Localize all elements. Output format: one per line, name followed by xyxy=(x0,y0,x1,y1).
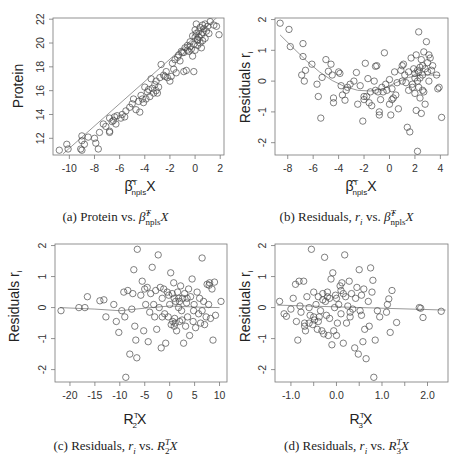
data-points xyxy=(58,246,224,380)
data-point xyxy=(309,61,315,67)
data-point xyxy=(192,325,198,331)
data-point xyxy=(329,72,335,78)
data-point xyxy=(154,326,160,332)
data-point xyxy=(180,340,186,346)
data-point xyxy=(333,332,339,338)
data-point xyxy=(302,328,308,334)
y-tick-label: 1 xyxy=(36,273,48,279)
data-point xyxy=(201,321,207,327)
data-point xyxy=(96,129,102,135)
data-point xyxy=(365,298,371,304)
data-point xyxy=(377,314,383,320)
data-point xyxy=(159,295,165,301)
data-point xyxy=(173,70,179,76)
data-point xyxy=(76,304,82,310)
data-point xyxy=(342,252,348,258)
data-point xyxy=(383,309,389,315)
panel-protein-vs-beta: -10-8-6-4-202121416182022 Protein β̂Tnpl… xyxy=(0,0,231,231)
data-point xyxy=(369,289,375,295)
data-point xyxy=(134,246,140,252)
data-point xyxy=(357,83,363,89)
y-tick-label: 16 xyxy=(34,85,46,97)
data-point xyxy=(133,337,139,343)
data-point xyxy=(329,342,335,348)
data-point xyxy=(147,309,153,315)
data-point xyxy=(101,297,107,303)
data-point xyxy=(400,61,406,67)
data-point xyxy=(116,329,122,335)
data-point xyxy=(363,356,369,362)
data-point xyxy=(64,141,70,147)
data-point xyxy=(321,254,327,260)
y-tick-label: -1 xyxy=(36,334,48,343)
data-point xyxy=(306,304,312,310)
y-tick-label: 0 xyxy=(256,304,268,310)
data-point xyxy=(167,301,173,307)
data-point xyxy=(187,294,193,300)
data-points xyxy=(276,246,444,380)
y-axis-label: Residuals ri xyxy=(6,261,25,351)
data-point xyxy=(58,308,64,314)
data-point xyxy=(418,56,424,62)
data-point xyxy=(277,20,283,26)
data-point xyxy=(371,78,377,84)
data-point xyxy=(123,108,129,114)
x-tick-label: -20 xyxy=(62,389,77,401)
data-point xyxy=(212,312,218,318)
y-tick-label: 12 xyxy=(34,132,46,144)
data-point xyxy=(399,62,405,68)
data-point xyxy=(163,340,169,346)
data-point xyxy=(123,374,129,380)
fit-line xyxy=(63,17,218,154)
x-tick-label: -2 xyxy=(165,162,174,174)
data-point xyxy=(183,67,189,73)
x-axis-label: β̂TnplsX xyxy=(100,178,180,197)
data-point xyxy=(300,40,306,46)
data-point xyxy=(417,95,423,101)
data-point xyxy=(177,283,183,289)
data-point xyxy=(138,292,144,298)
data-point xyxy=(298,309,304,315)
data-point xyxy=(421,89,427,95)
data-point xyxy=(299,72,305,78)
data-point xyxy=(103,314,109,320)
y-tick-label: -2 xyxy=(36,365,48,374)
data-point xyxy=(79,138,85,144)
data-point xyxy=(190,308,196,314)
data-point xyxy=(354,284,360,290)
x-tick-label: 0 xyxy=(387,162,393,174)
data-point xyxy=(315,294,321,300)
data-point xyxy=(186,332,192,338)
x-axis-label: RT3X xyxy=(331,411,391,430)
data-point xyxy=(145,339,151,345)
x-tick-label: 2.0 xyxy=(420,389,435,401)
x-tick-label: -10 xyxy=(62,162,77,174)
y-tick-label: 0 xyxy=(36,304,48,310)
data-point xyxy=(127,351,133,357)
data-point xyxy=(190,318,196,324)
data-point xyxy=(132,323,138,329)
data-point xyxy=(386,296,392,302)
data-point xyxy=(121,289,127,295)
data-point xyxy=(171,280,177,286)
x-axis-label: β̂TnplsX xyxy=(321,178,401,197)
caption-a: (a) Protein vs. β̂TnplsX xyxy=(0,208,231,227)
data-point xyxy=(366,323,372,329)
y-axis-label: Residuals ri xyxy=(237,42,256,132)
x-tick-label: 5 xyxy=(192,389,198,401)
data-point xyxy=(315,93,321,99)
panel-residuals-vs-r3: -1.00.01.02.0-2-1012 Residuals ri RT3X (… xyxy=(231,231,462,462)
x-tick-label: 2 xyxy=(217,162,223,174)
x-tick-label: -4 xyxy=(334,162,343,174)
data-point xyxy=(290,295,296,301)
x-tick-label: -6 xyxy=(115,162,124,174)
caption-d: (d) Residuals, ri vs. RT3X xyxy=(231,437,462,456)
data-point xyxy=(318,115,324,121)
data-point xyxy=(420,314,426,320)
data-point xyxy=(436,84,442,90)
y-tick-label: 1 xyxy=(256,47,268,53)
plot-frame xyxy=(275,244,448,382)
data-point xyxy=(358,292,364,298)
data-point xyxy=(143,301,149,307)
data-point xyxy=(358,312,364,318)
